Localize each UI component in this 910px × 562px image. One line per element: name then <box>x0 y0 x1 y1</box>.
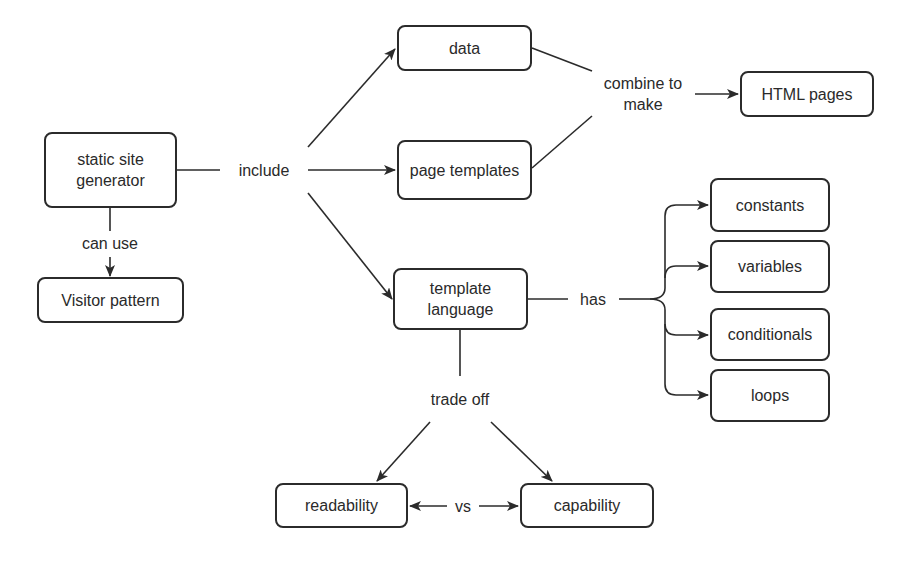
node-html-pages: HTML pages <box>740 71 874 117</box>
concept-map: static site generator Visitor pattern da… <box>0 0 910 562</box>
node-loops: loops <box>710 369 830 422</box>
node-data: data <box>397 25 532 71</box>
node-variables: variables <box>710 240 830 293</box>
edge-label-include: include <box>222 160 306 181</box>
node-constants: constants <box>710 178 830 232</box>
node-static-site-generator: static site generator <box>44 132 177 208</box>
node-visitor-pattern: Visitor pattern <box>37 277 184 323</box>
edge-label-has: has <box>568 289 618 310</box>
node-readability: readability <box>275 483 408 528</box>
node-template-language: template language <box>393 268 528 330</box>
edge-label-can-use: can use <box>70 233 150 254</box>
node-capability: capability <box>520 483 654 528</box>
edge-label-vs: vs <box>448 496 478 517</box>
edge-label-trade-off: trade off <box>410 389 510 410</box>
edge-tradeoff-capability <box>491 422 552 481</box>
edge-include-template-language <box>308 193 392 299</box>
node-page-templates: page templates <box>397 140 532 200</box>
edge-include-data <box>308 49 395 147</box>
edge-has-conditionals <box>650 299 708 335</box>
edge-tradeoff-readability <box>377 422 430 481</box>
node-conditionals: conditionals <box>710 308 830 361</box>
edge-has-constants <box>650 205 708 299</box>
edge-data-combine <box>532 48 592 71</box>
edge-label-combine-to-make: combine to make <box>590 73 696 115</box>
edge-pagetemplates-combine <box>532 116 592 168</box>
edge-has-variables <box>665 266 708 278</box>
